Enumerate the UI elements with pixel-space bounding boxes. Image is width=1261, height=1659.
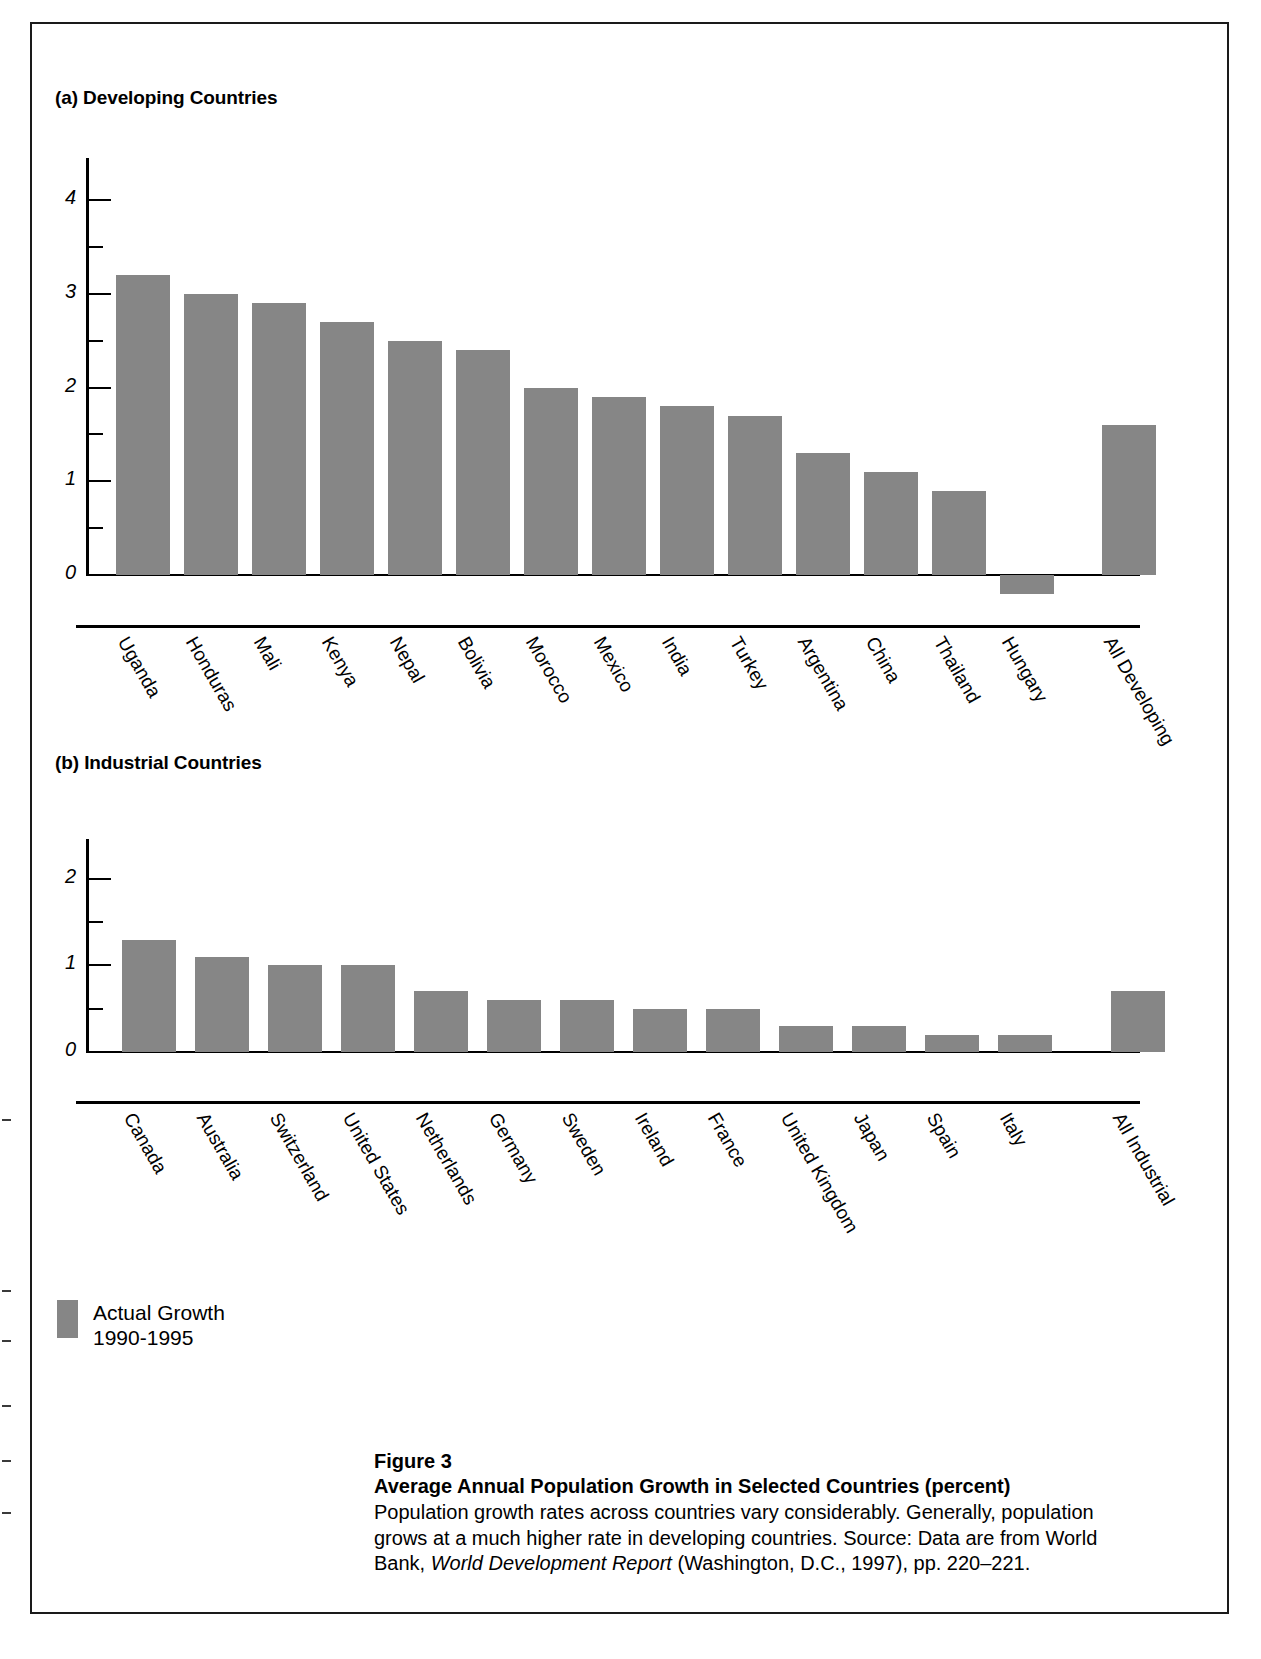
y-tick-major [89, 878, 111, 880]
x-axis-label: Australia [192, 1109, 248, 1184]
x-axis-label: Italy [995, 1109, 1031, 1150]
bar [1111, 991, 1165, 1052]
bar [487, 1000, 541, 1052]
x-axis-label: Switzerland [265, 1109, 333, 1205]
x-axis-label: Ireland [630, 1109, 678, 1170]
x-axis-label: Canada [119, 1109, 171, 1178]
x-axis-label: United States [338, 1109, 414, 1219]
x-axis-label: All Industrial [1108, 1109, 1179, 1210]
x-axis-label: Germany [484, 1109, 542, 1188]
bar [195, 957, 249, 1052]
bar [633, 1009, 687, 1052]
bar [925, 1035, 979, 1052]
page-edge-mark [2, 1405, 11, 1407]
y-tick-major [89, 964, 111, 966]
figure-page: (a) Developing Countries 01234UgandaHond… [0, 0, 1261, 1659]
legend: Actual Growth 1990-1995 [57, 1300, 225, 1350]
bar [341, 965, 395, 1052]
x-axis-label: Spain [922, 1109, 965, 1162]
page-edge-mark [2, 1340, 11, 1342]
y-axis-line [86, 839, 89, 1052]
bar [414, 991, 468, 1052]
x-axis-label: France [703, 1109, 752, 1171]
legend-label-line2: 1990-1995 [93, 1325, 225, 1350]
bar [998, 1035, 1052, 1052]
y-tick-label: 2 [46, 865, 76, 888]
page-edge-mark [2, 1460, 11, 1462]
bar [268, 965, 322, 1052]
x-axis-baseline [76, 1101, 1140, 1104]
caption-body: Population growth rates across countries… [374, 1500, 1109, 1577]
chart-industrial-countries: 012CanadaAustraliaSwitzerlandUnited Stat… [0, 0, 1261, 1260]
figure-caption: Figure 3 Average Annual Population Growt… [374, 1449, 1109, 1577]
bar [852, 1026, 906, 1052]
caption-body-part2: (Washington, D.C., 1997), pp. 220–221. [672, 1552, 1030, 1574]
caption-figure-number: Figure 3 [374, 1449, 1109, 1474]
bar [779, 1026, 833, 1052]
x-axis-label: Sweden [557, 1109, 610, 1179]
page-edge-mark [2, 1512, 11, 1514]
caption-body-italic: World Development Report [431, 1552, 672, 1574]
caption-title: Average Annual Population Growth in Sele… [374, 1474, 1109, 1499]
y-tick-minor [89, 921, 103, 923]
x-axis-label: Japan [849, 1109, 894, 1165]
legend-label: Actual Growth 1990-1995 [93, 1300, 225, 1350]
legend-label-line1: Actual Growth [93, 1300, 225, 1325]
y-tick-label: 0 [46, 1038, 76, 1061]
bar [560, 1000, 614, 1052]
page-edge-mark [2, 1290, 11, 1292]
y-tick-label: 1 [46, 951, 76, 974]
y-tick-minor [89, 1008, 103, 1010]
x-axis-label: United Kingdom [776, 1109, 863, 1237]
legend-swatch-actual-growth [57, 1300, 78, 1338]
x-axis-label: Netherlands [411, 1109, 481, 1209]
bar [706, 1009, 760, 1052]
bar [122, 940, 176, 1052]
